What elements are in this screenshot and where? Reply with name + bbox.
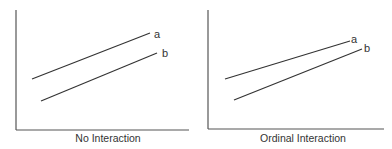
panel-no-interaction: a b No Interaction	[16, 10, 189, 144]
series-label-a: a	[351, 33, 358, 45]
panel-ordinal-interaction: a b Ordinal Interaction	[208, 10, 384, 144]
panel-title: No Interaction	[75, 132, 141, 144]
panel-title: Ordinal Interaction	[260, 132, 346, 144]
line-a	[225, 41, 350, 79]
series-label-b: b	[162, 47, 168, 59]
line-a	[32, 33, 150, 79]
interaction-diagrams: a b No Interaction a b Ordinal Interacti…	[0, 0, 392, 149]
series-label-b: b	[364, 42, 370, 54]
line-b	[41, 53, 157, 101]
series-label-a: a	[154, 28, 161, 40]
